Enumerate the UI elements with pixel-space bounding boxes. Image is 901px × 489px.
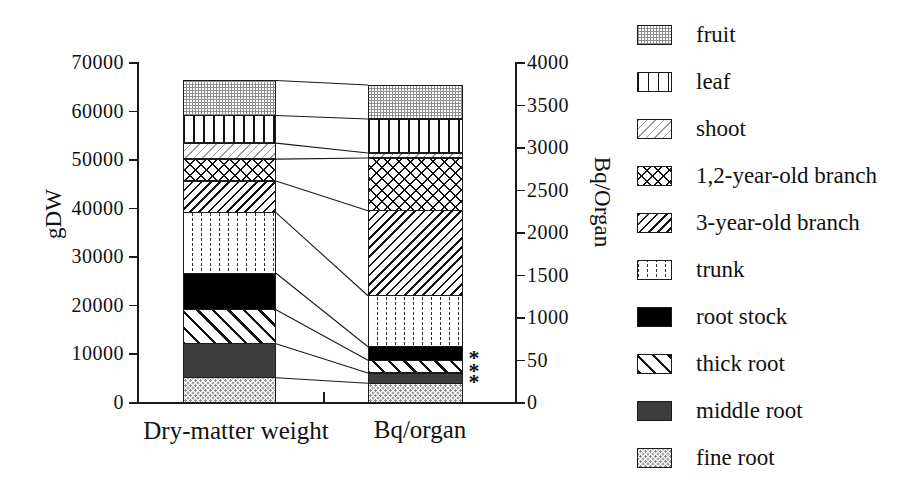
legend-label-3-year-old-branch: 3-year-old branch <box>696 210 860 236</box>
legend-swatch-trunk <box>637 260 672 280</box>
legend-label-1-2-year-old-branch: 1,2-year-old branch <box>696 163 877 189</box>
bar-boundary-bq-organ-6 <box>368 157 463 158</box>
x-axis-line <box>137 402 517 404</box>
legend-swatch-thick-root <box>637 354 672 374</box>
legend-label-root-stock: root stock <box>696 304 787 330</box>
legend-item-thick-root: thick root <box>637 351 785 377</box>
legend-swatch-root-stock <box>637 307 672 327</box>
right-tick-2500 <box>517 190 525 192</box>
left-tick-40000 <box>129 208 137 210</box>
right-tick-0 <box>517 402 525 404</box>
left-tick-label-0: 0 <box>34 392 124 412</box>
left-tick-0 <box>129 402 137 404</box>
bar-segment-bq-organ-fine-root <box>368 383 463 402</box>
bar-segment-bq-organ-3-year-old-branch <box>368 211 463 296</box>
figure: 7000060000500004000030000200001000004000… <box>0 0 901 489</box>
legend-swatch-fine-root <box>637 448 672 468</box>
legend-label-thick-root: thick root <box>696 351 785 377</box>
right-tick-3000 <box>517 147 525 149</box>
left-tick-label-50000: 50000 <box>34 149 124 169</box>
bar-boundary-bq-organ-8 <box>368 118 463 119</box>
bar-segment-bq-organ-trunk <box>368 296 463 347</box>
bar-boundary-bq-organ-3 <box>368 346 463 347</box>
connector-line-4 <box>276 213 368 296</box>
legend-label-fruit: fruit <box>696 22 736 48</box>
right-tick-label-50: 50 <box>527 350 548 370</box>
legend-item-leaf: leaf <box>637 69 730 95</box>
bar-segment-dry-matter-weight-3-year-old-branch <box>183 181 276 213</box>
left-tick-20000 <box>129 305 137 307</box>
bar-boundary-bq-organ-0 <box>368 383 463 384</box>
legend-label-middle-root: middle root <box>696 398 803 424</box>
significance-asterisk-middle-root: * <box>469 375 480 389</box>
legend-item-fine-root: fine root <box>637 445 775 471</box>
right-tick-label-3500: 3500 <box>527 95 569 115</box>
bar-boundary-bq-organ-7 <box>368 152 463 153</box>
legend-item-1-2-year-old-branch: 1,2-year-old branch <box>637 163 877 189</box>
connector-line-3 <box>276 273 368 346</box>
bar-boundary-dry-matter-weight-4 <box>183 212 276 213</box>
bar-segment-bq-organ-leaf <box>368 119 463 153</box>
legend-label-shoot: shoot <box>696 116 746 142</box>
connector-line-1 <box>276 344 368 373</box>
left-axis-title: gDW <box>41 189 67 239</box>
category-label-bq-organ: Bq/organ <box>374 416 467 444</box>
legend-swatch-fruit <box>637 25 672 45</box>
bar-segment-dry-matter-weight-thick-root <box>183 310 276 344</box>
bar-boundary-bq-organ-5 <box>368 210 463 211</box>
connector-line-0 <box>276 378 368 384</box>
left-tick-60000 <box>129 111 137 113</box>
bar-boundary-dry-matter-weight-2 <box>183 309 276 310</box>
legend-label-trunk: trunk <box>696 257 745 283</box>
connector-line-9 <box>276 80 368 84</box>
connector-line-6 <box>276 158 368 159</box>
right-tick-label-1500: 1500 <box>527 265 569 285</box>
left-tick-label-20000: 20000 <box>34 295 124 315</box>
bar-segment-bq-organ-thick-root <box>368 360 463 373</box>
left-axis-line <box>137 62 139 402</box>
left-tick-10000 <box>129 353 137 355</box>
bar-boundary-dry-matter-weight-1 <box>183 343 276 344</box>
bar-segment-dry-matter-weight-1-2-year-old-branch <box>183 159 276 181</box>
left-tick-30000 <box>129 256 137 258</box>
bar-segment-dry-matter-weight-shoot <box>183 143 276 159</box>
bar-boundary-dry-matter-weight-5 <box>183 180 276 181</box>
right-axis-title: Bq/Organ <box>589 157 615 247</box>
right-tick-4000 <box>517 62 525 64</box>
bar-boundary-dry-matter-weight-6 <box>183 158 276 159</box>
bar-boundary-bq-organ-4 <box>368 295 463 296</box>
right-tick-50 <box>517 360 525 362</box>
right-tick-label-0: 0 <box>527 392 538 412</box>
right-tick-label-2500: 2500 <box>527 180 569 200</box>
legend-item-3-year-old-branch: 3-year-old branch <box>637 210 860 236</box>
left-tick-70000 <box>129 62 137 64</box>
connector-line-7 <box>276 143 368 153</box>
x-axis-mid-tick <box>323 392 325 402</box>
bar-segment-dry-matter-weight-middle-root <box>183 344 276 378</box>
bar-boundary-dry-matter-weight-7 <box>183 142 276 143</box>
bar-segment-bq-organ-1-2-year-old-branch <box>368 158 463 211</box>
right-tick-3500 <box>517 105 525 107</box>
left-tick-label-60000: 60000 <box>34 101 124 121</box>
bar-boundary-bq-organ-1 <box>368 372 463 373</box>
bar-segment-dry-matter-weight-fruit <box>183 80 276 115</box>
legend-label-fine-root: fine root <box>696 445 775 471</box>
legend-swatch-leaf <box>637 72 672 92</box>
bar-segment-dry-matter-weight-trunk <box>183 213 276 274</box>
legend-swatch-shoot <box>637 119 672 139</box>
legend-swatch-middle-root <box>637 401 672 421</box>
bar-boundary-dry-matter-weight-3 <box>183 273 276 274</box>
bar-segment-dry-matter-weight-fine-root <box>183 378 276 402</box>
connector-line-5 <box>276 181 368 211</box>
bar-segment-dry-matter-weight-leaf <box>183 115 276 143</box>
legend-swatch-3-year-old-branch <box>637 213 672 233</box>
right-tick-label-4000: 4000 <box>527 52 569 72</box>
bar-boundary-bq-organ-2 <box>368 360 463 361</box>
bar-boundary-dry-matter-weight-8 <box>183 115 276 116</box>
right-tick-1500 <box>517 275 525 277</box>
legend-item-root-stock: root stock <box>637 304 787 330</box>
legend-item-shoot: shoot <box>637 116 746 142</box>
left-tick-label-70000: 70000 <box>34 52 124 72</box>
left-tick-label-30000: 30000 <box>34 246 124 266</box>
connector-line-8 <box>276 115 368 119</box>
